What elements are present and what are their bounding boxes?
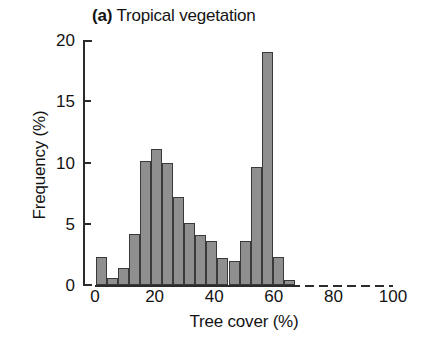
histogram-bar <box>262 52 273 285</box>
y-axis-tick <box>83 100 91 102</box>
x-axis-tick-label: 60 <box>264 288 283 305</box>
y-axis-bottom-cap <box>83 284 92 286</box>
histogram-bar <box>162 163 173 286</box>
histogram-bar <box>195 235 206 285</box>
histogram-bar <box>173 197 184 285</box>
x-axis-tick-label: 20 <box>145 288 164 305</box>
panel-title-text: Tropical vegetation <box>116 6 255 25</box>
histogram-bar <box>206 241 217 285</box>
x-axis-tick-label: 80 <box>324 288 343 305</box>
histogram-bar <box>184 223 195 285</box>
x-axis-tick-label: 40 <box>205 288 224 305</box>
histogram-bars <box>95 40 393 285</box>
figure-panel-a: (a) Tropical vegetation Frequency (%) Tr… <box>0 0 421 355</box>
x-axis-tick-label: 100 <box>379 288 407 305</box>
histogram-bar <box>229 261 240 286</box>
histogram-bar <box>151 149 162 285</box>
y-axis-tick-label: 20 <box>56 32 75 49</box>
page-title: (a) Tropical vegetation <box>92 6 256 26</box>
x-axis-label: Tree cover (%) <box>95 312 393 332</box>
histogram-bar <box>140 161 151 285</box>
histogram-bar <box>118 268 129 285</box>
histogram-bar <box>217 258 228 285</box>
y-axis-tick-label: 15 <box>56 93 75 110</box>
y-axis-tick-label: 0 <box>66 277 75 294</box>
y-axis-label: Frequency (%) <box>30 65 50 265</box>
y-axis-tick <box>83 162 91 164</box>
x-axis-tick-label: 0 <box>90 288 99 305</box>
y-axis-tick-label: 10 <box>56 154 75 171</box>
histogram-bar <box>240 241 251 285</box>
histogram-bar <box>273 257 284 285</box>
y-axis-tick-label: 5 <box>66 215 75 232</box>
panel-letter: (a) <box>92 6 112 25</box>
histogram-bar <box>107 278 118 285</box>
y-axis-tick <box>83 223 91 225</box>
histogram-bar <box>129 234 140 285</box>
histogram-bar <box>251 167 262 285</box>
histogram-bar <box>96 257 107 285</box>
y-axis-top-cap <box>83 40 92 42</box>
histogram-bar <box>284 280 295 285</box>
plot-area: 05101520 020406080100 <box>95 40 393 285</box>
